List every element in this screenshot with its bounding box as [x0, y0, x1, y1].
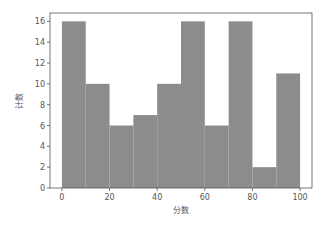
y-tick-label: 0: [40, 184, 45, 193]
y-tick-label: 6: [40, 122, 45, 131]
histogram-bar: [181, 21, 205, 188]
y-axis-label: 计数: [14, 93, 24, 109]
x-tick-label: 100: [292, 193, 307, 202]
histogram-chart: 020406080100 0246810121416 分数 计数: [0, 0, 331, 234]
x-tick-label: 80: [247, 193, 257, 202]
y-tick-label: 14: [35, 38, 45, 47]
histogram-bar: [229, 21, 253, 188]
histogram-bar: [133, 115, 157, 188]
histogram-bar: [252, 167, 276, 188]
x-tick-label: 0: [59, 193, 64, 202]
histogram-bar: [157, 84, 181, 188]
y-tick-label: 4: [40, 142, 45, 151]
y-tick-label: 12: [35, 59, 45, 68]
x-axis-ticks: 020406080100: [59, 188, 307, 202]
histogram-bar: [205, 126, 229, 189]
y-tick-label: 8: [40, 101, 45, 110]
x-axis-label: 分数: [173, 205, 189, 215]
x-tick-label: 40: [152, 193, 162, 202]
y-axis-ticks: 0246810121416: [35, 17, 50, 193]
histogram-bar: [86, 84, 110, 188]
bars-group: [62, 21, 300, 188]
y-tick-label: 10: [35, 80, 45, 89]
x-tick-label: 60: [200, 193, 210, 202]
histogram-bar: [110, 126, 134, 189]
histogram-bar: [62, 21, 86, 188]
x-tick-label: 20: [104, 193, 114, 202]
y-tick-label: 16: [35, 17, 45, 26]
histogram-bar: [276, 73, 300, 188]
y-tick-label: 2: [40, 163, 45, 172]
